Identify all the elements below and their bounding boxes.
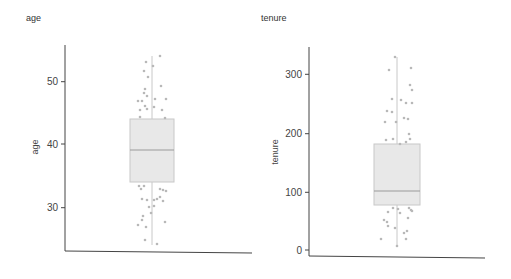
tenure-boxplot: 300 200 100 0 tenure [255, 0, 511, 279]
x-axis [65, 251, 252, 253]
svg-text:40: 40 [47, 139, 59, 150]
svg-text:0: 0 [296, 245, 302, 256]
svg-text:100: 100 [285, 187, 302, 198]
y-axis-label: age [30, 139, 40, 154]
svg-text:50: 50 [47, 76, 59, 87]
iqr-box [374, 144, 420, 205]
svg-text:30: 30 [47, 202, 59, 213]
x-axis [309, 256, 485, 258]
age-boxplot: 50 40 30 age [0, 0, 255, 279]
svg-text:200: 200 [285, 128, 302, 139]
svg-text:300: 300 [285, 69, 302, 80]
y-ticks: 50 40 30 [47, 76, 65, 213]
y-axis-label: tenure [270, 139, 280, 165]
y-ticks: 300 200 100 0 [285, 69, 309, 256]
